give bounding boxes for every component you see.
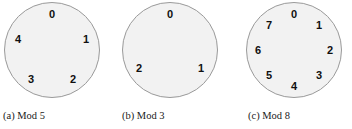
dial-circle-mod5 <box>4 2 100 98</box>
dial-label-mod5-1: 1 <box>83 34 89 45</box>
dial-label-mod5-0: 0 <box>49 9 55 20</box>
caption-mod3: (b) Mod 3 <box>122 109 165 122</box>
dial-mod8: 01234567 <box>0 0 352 104</box>
dial-label-mod3-1: 1 <box>198 63 204 74</box>
panel-mod8: 01234567(c) Mod 8 <box>0 0 352 129</box>
caption-mod8: (c) Mod 8 <box>248 109 290 122</box>
dial-label-mod8-3: 3 <box>316 70 322 81</box>
dial-label-mod8-7: 7 <box>266 20 272 31</box>
dial-circle-mod8 <box>246 2 342 98</box>
dial-label-mod8-6: 6 <box>255 45 261 56</box>
dial-circle-mod3 <box>122 2 218 98</box>
dial-label-mod8-5: 5 <box>266 70 272 81</box>
dial-mod3: 012 <box>0 0 352 104</box>
dial-label-mod8-4: 4 <box>291 81 297 92</box>
dial-label-mod5-3: 3 <box>28 74 34 85</box>
dial-label-mod8-0: 0 <box>291 9 297 20</box>
dial-label-mod3-2: 2 <box>136 63 142 74</box>
dial-label-mod5-4: 4 <box>15 34 21 45</box>
dial-label-mod5-2: 2 <box>70 74 76 85</box>
dial-label-mod8-2: 2 <box>327 45 333 56</box>
dial-label-mod3-0: 0 <box>167 9 173 20</box>
panel-mod5: 01234(a) Mod 5 <box>0 0 352 129</box>
caption-mod5: (a) Mod 5 <box>3 109 45 122</box>
dial-mod5: 01234 <box>0 0 352 104</box>
dial-label-mod8-1: 1 <box>316 20 322 31</box>
panel-mod3: 012(b) Mod 3 <box>0 0 352 129</box>
mod-dials-figure: 01234(a) Mod 5012(b) Mod 301234567(c) Mo… <box>0 0 352 129</box>
